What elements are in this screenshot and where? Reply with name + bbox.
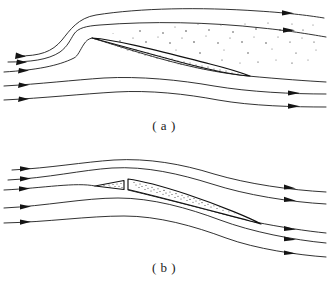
inlet-arrows-a (15, 53, 29, 103)
inlet-arrows-b (19, 166, 31, 225)
panel-b-diagram (0, 146, 328, 266)
streamline-group-b (4, 160, 326, 257)
flow-arrow-icon (284, 184, 296, 189)
outlet-arrows-b (284, 184, 296, 255)
flow-arrow-icon (20, 219, 31, 224)
disturbance-region-a (112, 22, 320, 63)
streamline-a-3 (4, 38, 326, 82)
figure-root: ( a ) (0, 0, 328, 293)
streamline-a-4 (4, 77, 326, 94)
flow-arrow-icon (282, 10, 294, 15)
flow-arrow-icon (288, 90, 300, 95)
flow-arrow-icon (18, 97, 29, 103)
flow-arrow-icon (288, 104, 300, 109)
streamline-a-5 (4, 91, 326, 107)
panel-b-caption: ( b ) (0, 260, 328, 276)
panel-b: ( b ) (0, 146, 328, 293)
flow-arrow-icon (20, 176, 31, 181)
flow-arrow-icon (18, 68, 29, 74)
flow-arrow-icon (284, 250, 296, 255)
flow-arrow-icon (20, 204, 31, 209)
airfoil-body-a (92, 38, 250, 76)
panel-a: ( a ) (0, 0, 328, 146)
streamline-b-1 (12, 160, 326, 192)
flow-arrow-icon (16, 60, 27, 66)
flow-arrow-icon (19, 186, 30, 191)
flow-arrow-icon (20, 166, 31, 171)
flow-arrow-icon (18, 83, 29, 89)
streamline-b-5 (4, 216, 326, 257)
panel-a-caption: ( a ) (0, 118, 328, 134)
panel-a-diagram (0, 0, 328, 120)
